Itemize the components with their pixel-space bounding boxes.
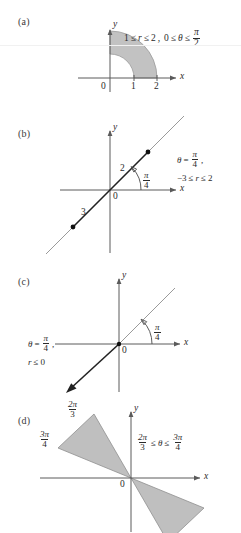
origin-dot	[117, 342, 121, 346]
panel-c-annotation-line2: r ≤ 0	[28, 357, 54, 367]
panel-a-origin-label: 0	[101, 81, 106, 91]
a-theta-symbol: θ	[178, 33, 183, 43]
c-r-symbol: r	[28, 357, 32, 367]
panel-b-graphic	[0, 125, 241, 255]
panel-b-angle-fraction: π 4	[143, 171, 150, 190]
d-le-1: ≤	[151, 438, 156, 448]
d-ray1-num: 2π	[67, 400, 78, 409]
panel-b: (b) x y 0 2 3 π 4 θ = π 4	[0, 125, 241, 255]
a-le-2: ≤	[144, 33, 149, 43]
panel-d-ray-label-2pi3: 2π 3	[66, 395, 79, 419]
wedge-lower-right	[131, 478, 204, 533]
d-theta-symbol: θ	[158, 438, 162, 448]
panel-c: (c) x y 0 π 4 θ = π 4	[0, 258, 241, 393]
b-r-symbol: r	[196, 173, 200, 183]
panel-b-angle-label: π 4	[142, 166, 151, 190]
a-theta-min: 0	[164, 33, 169, 43]
panel-c-angle-fraction: π 4	[154, 323, 161, 342]
c-le: ≤	[34, 357, 39, 367]
b-angle-num: π	[143, 171, 150, 180]
y-axis-arrow	[129, 411, 134, 417]
c-theta-symbol: θ	[28, 339, 32, 349]
c-comma: ,	[52, 339, 54, 349]
d-min-fraction: 2π 3	[137, 433, 148, 452]
x-axis-arrow	[194, 476, 200, 481]
panel-b-annotation: θ = π 4 , −3 ≤ r ≤ 2	[177, 150, 213, 183]
panel-c-y-axis-label: y	[122, 270, 126, 280]
panel-b-x-axis-label: x	[180, 183, 184, 193]
panel-d-ray-label-3pi4: 3π 4	[38, 425, 51, 449]
panel-c-x-axis-label: x	[184, 337, 188, 347]
x-axis-arrow	[170, 76, 176, 81]
a-r-min: 1	[124, 33, 129, 43]
panel-c-annotation-line1: θ = π 4 ,	[28, 334, 54, 353]
segment-endpoint-lower	[71, 225, 76, 230]
scan-artifact-line-1	[0, 45, 241, 46]
panel-a-tick-label-2: 2	[154, 81, 159, 91]
d-max-den: 4	[175, 442, 182, 452]
a-le-3: ≤	[171, 33, 176, 43]
a-r-max: 2	[151, 33, 156, 43]
panel-c-annotation: θ = π 4 , r ≤ 0	[28, 334, 54, 367]
c-ann-angle-num: π	[43, 334, 50, 343]
x-axis-arrow	[174, 342, 180, 347]
d-le-2: ≤	[164, 438, 169, 448]
panel-d-graphic	[0, 393, 241, 533]
wedge-upper-left	[58, 414, 131, 478]
y-axis-arrow	[117, 278, 122, 284]
panel-c-origin-label: 0	[122, 345, 127, 355]
panel-b-annotation-line2: −3 ≤ r ≤ 2	[177, 173, 213, 183]
a-r-symbol: r	[138, 33, 142, 43]
b-angle-den: 4	[143, 180, 150, 190]
b-r-min: −3	[177, 173, 187, 183]
panel-c-angle-label: π 4	[153, 318, 162, 342]
b-r-max: 2	[208, 173, 213, 183]
a-le-4: ≤	[185, 33, 190, 43]
c-ann-angle-den: 4	[43, 343, 50, 353]
d-ray-fraction-2: 3π 4	[39, 430, 50, 449]
b-angle-fraction-2: π 4	[192, 150, 199, 169]
a-theta-max-den: 2	[193, 38, 200, 49]
b-theta-symbol: θ	[177, 155, 181, 165]
x-axis-arrow	[170, 188, 176, 193]
panel-a-graphic	[0, 0, 241, 125]
panel-a: (a) x y 0 1 2 1 ≤ r ≤ 2 , 0 ≤ θ ≤ π 2	[0, 0, 241, 125]
d-min-num: 2π	[137, 433, 148, 442]
panel-b-lower-length-label: 3	[81, 207, 86, 217]
panel-b-annotation-line1: θ = π 4 ,	[177, 150, 213, 169]
a-theta-max-num: π	[193, 28, 200, 38]
b-le-2: ≤	[201, 173, 206, 183]
c-angle-num: π	[154, 323, 161, 332]
c-equals: =	[34, 339, 39, 349]
b-ann-angle-den: 4	[192, 159, 199, 169]
b-comma: ,	[201, 155, 203, 165]
c-angle-den: 4	[154, 332, 161, 342]
a-comma: ,	[158, 33, 160, 43]
panel-d-origin-label: 0	[120, 479, 125, 489]
panel-a-tick-label-1: 1	[131, 81, 136, 91]
panel-d-x-axis-label: x	[204, 471, 208, 481]
b-equals: =	[183, 155, 188, 165]
panel-d-annotation: 2π 3 ≤ θ ≤ 3π 4	[136, 433, 184, 452]
c-r-max: 0	[40, 357, 45, 367]
b-ann-angle-num: π	[192, 150, 199, 159]
reference-ray	[119, 288, 175, 344]
d-ray2-num: 3π	[39, 430, 50, 439]
panel-a-y-axis-label: y	[113, 19, 117, 29]
d-max-fraction: 3π 4	[172, 433, 183, 452]
y-axis-arrow	[108, 130, 113, 136]
panel-d: (d) x y 0 2π 3 3π 4 2π 3 ≤ θ ≤	[0, 393, 241, 533]
panel-d-y-axis-label: y	[134, 403, 138, 413]
panel-c-graphic	[0, 258, 241, 393]
d-ray-fraction-1: 2π 3	[67, 400, 78, 419]
d-max-num: 3π	[172, 433, 183, 442]
d-ray1-den: 3	[69, 409, 76, 419]
negative-r-ray	[70, 344, 119, 389]
c-angle-fraction-2: π 4	[43, 334, 50, 353]
b-le-1: ≤	[189, 173, 194, 183]
d-min-den: 3	[139, 442, 146, 452]
panel-b-y-axis-label: y	[113, 122, 117, 132]
panel-b-upper-length-label: 2	[120, 163, 125, 173]
d-ray2-den: 4	[41, 439, 48, 449]
segment-endpoint-upper	[146, 150, 151, 155]
